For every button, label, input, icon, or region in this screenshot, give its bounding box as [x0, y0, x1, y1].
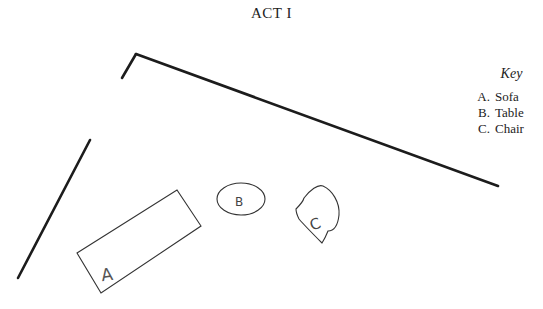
- sofa-shape: [77, 190, 201, 293]
- sofa-label: A: [100, 264, 115, 285]
- key-item-table: B. Table: [468, 105, 543, 121]
- stage-plan: A B C: [0, 0, 543, 309]
- key-legend: Key A. Sofa B. Table C. Chair: [468, 66, 543, 137]
- key-letter: C.: [468, 121, 490, 137]
- sofa: A: [77, 190, 201, 293]
- back-wall: [136, 54, 498, 186]
- table-label: B: [235, 195, 243, 209]
- chair-shape: [296, 186, 339, 243]
- table: B: [217, 183, 265, 215]
- key-letter: B.: [468, 105, 490, 121]
- key-label: Table: [495, 105, 524, 121]
- key-title: Key: [480, 66, 543, 82]
- key-letter: A.: [468, 89, 490, 105]
- key-item-sofa: A. Sofa: [468, 89, 543, 105]
- chair-label: C: [307, 214, 323, 235]
- key-label: Chair: [495, 121, 524, 137]
- chair: C: [296, 186, 339, 243]
- key-item-chair: C. Chair: [468, 121, 543, 137]
- key-label: Sofa: [495, 89, 519, 105]
- short-wall: [122, 54, 136, 78]
